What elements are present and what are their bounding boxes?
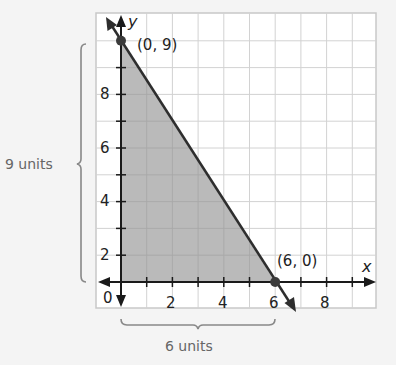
x-tick-2: 2 [166,294,176,312]
point-label-6-0: (6, 0) [277,252,317,270]
point-0-9 [116,36,126,46]
x-tick-6: 6 [269,294,279,312]
point-label-0-9: (0, 9) [137,36,177,54]
point-6-0 [270,277,280,287]
y-tick-2: 2 [100,246,110,264]
vertical-brace [77,44,86,282]
y-axis-label: y [127,12,138,31]
x-axis-label: x [361,257,372,276]
vertical-brace-label: 9 units [5,156,53,172]
horizontal-brace-label: 6 units [165,338,213,354]
x-tick-8: 8 [320,294,330,312]
y-tick-4: 4 [100,192,110,210]
y-tick-8: 8 [100,85,110,103]
x-tick-4: 4 [218,294,228,312]
y-tick-6: 6 [100,139,110,157]
origin-label: 0 [103,289,113,307]
horizontal-brace [121,319,275,329]
graph: y x (0, 9) (6, 0) 0 2 4 6 8 2 4 6 8 9 un… [0,0,396,365]
